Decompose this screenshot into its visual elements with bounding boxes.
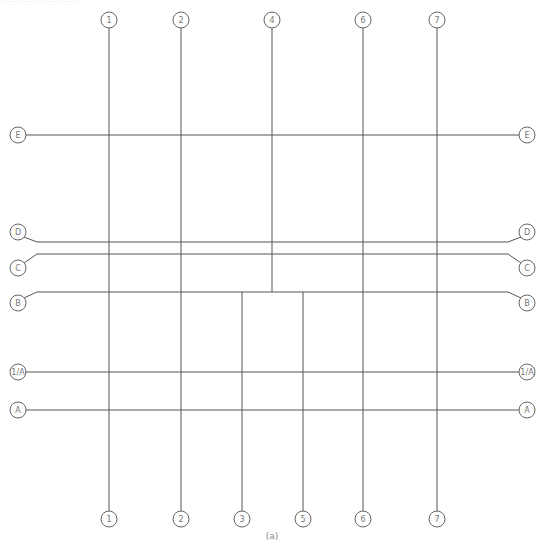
axis-label: D <box>524 228 530 237</box>
axis-label: 4 <box>269 16 274 25</box>
axis-bubble-right-B: B <box>519 295 535 311</box>
axis-label: E <box>15 131 20 140</box>
axis-label: E <box>524 131 529 140</box>
axis-label: A <box>15 406 21 415</box>
axis-bubble-left-E: E <box>10 127 26 143</box>
axis-grid-diagram: 11224356677EEDDCCBB1/A1/AAA <box>0 0 543 549</box>
axis-bubble-bottom-2: 2 <box>173 511 189 527</box>
axis-label: 5 <box>300 515 305 524</box>
axis-bubble-bottom-6: 6 <box>355 511 371 527</box>
axis-label: B <box>524 299 530 308</box>
axis-label: 1/A <box>11 368 25 377</box>
axis-bubble-bottom-1: 1 <box>101 511 117 527</box>
axis-label: 6 <box>360 16 365 25</box>
axis-label: 3 <box>239 515 244 524</box>
axis-label: 1 <box>106 515 111 524</box>
axis-bubble-left-C: C <box>10 260 26 276</box>
axis-label: 1 <box>106 16 111 25</box>
axis-label: B <box>15 299 21 308</box>
axis-bubble-right-1-A: 1/A <box>519 364 535 380</box>
axis-bubble-left-D: D <box>10 224 26 240</box>
axis-bubble-top-4: 4 <box>264 12 280 28</box>
axis-bubble-left-1-A: 1/A <box>10 364 26 380</box>
axis-bubble-right-E: E <box>519 127 535 143</box>
horizontal-axis-line-B <box>24 292 521 298</box>
axis-bubble-bottom-5: 5 <box>295 511 311 527</box>
figure-caption: (a) <box>260 531 284 541</box>
axis-label: D <box>15 228 21 237</box>
axis-bubble-bottom-3: 3 <box>234 511 250 527</box>
axis-bubble-right-A: A <box>519 402 535 418</box>
axis-bubble-top-2: 2 <box>173 12 189 28</box>
axis-label: 7 <box>434 16 439 25</box>
axis-bubble-top-6: 6 <box>355 12 371 28</box>
axis-label: 1/A <box>520 368 534 377</box>
axis-bubble-right-C: C <box>519 260 535 276</box>
axis-bubble-left-B: B <box>10 295 26 311</box>
axis-bubble-top-7: 7 <box>429 12 445 28</box>
axis-label: C <box>524 264 530 273</box>
axis-label: 2 <box>178 515 183 524</box>
axis-bubble-top-1: 1 <box>101 12 117 28</box>
axis-label: A <box>524 406 530 415</box>
axis-label: 2 <box>178 16 183 25</box>
axis-label: 7 <box>434 515 439 524</box>
axis-bubble-left-A: A <box>10 402 26 418</box>
axis-bubble-bottom-7: 7 <box>429 511 445 527</box>
axis-label: C <box>15 264 21 273</box>
grid-lines <box>24 28 521 511</box>
axis-bubble-right-D: D <box>519 224 535 240</box>
axis-label: 6 <box>360 515 365 524</box>
